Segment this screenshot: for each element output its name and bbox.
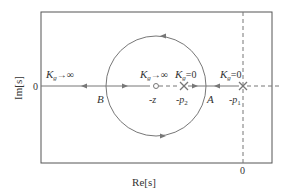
y-axis-title: Im[s] — [12, 76, 24, 100]
x-axis-title: Re[s] — [132, 176, 156, 188]
root-locus-diagram: Kg→∞ Kg→∞ Kg=0 Kg=0 B -z -p2 A -p1 0 0 R… — [0, 0, 282, 193]
p1-gain-annotation: Kg=0 — [219, 68, 241, 82]
arrow-icon-real-mid — [122, 84, 128, 89]
point-label-B: B — [97, 93, 104, 105]
point-label-A: A — [206, 93, 214, 105]
x-origin-label: 0 — [240, 165, 245, 176]
p2-gain-annotation: Kg=0 — [174, 68, 196, 82]
arrow-icon-real-p1 — [214, 84, 220, 89]
pole-label-p1: -p1 — [229, 94, 241, 107]
y-origin-label: 0 — [33, 81, 38, 92]
arrow-icon-real-left — [81, 84, 87, 89]
zero-marker-z — [154, 84, 159, 89]
arrow-icon-real-p2 — [192, 84, 198, 89]
pole-marker-p2 — [180, 82, 188, 90]
zero-label-z: -z — [149, 94, 156, 105]
left-gain-annotation: Kg→∞ — [45, 68, 74, 82]
zero-gain-annotation: Kg→∞ — [139, 68, 168, 82]
arrow-icon-top — [160, 34, 166, 39]
pole-label-p2: -p2 — [176, 94, 188, 107]
arrow-icon-bottom — [160, 134, 166, 139]
